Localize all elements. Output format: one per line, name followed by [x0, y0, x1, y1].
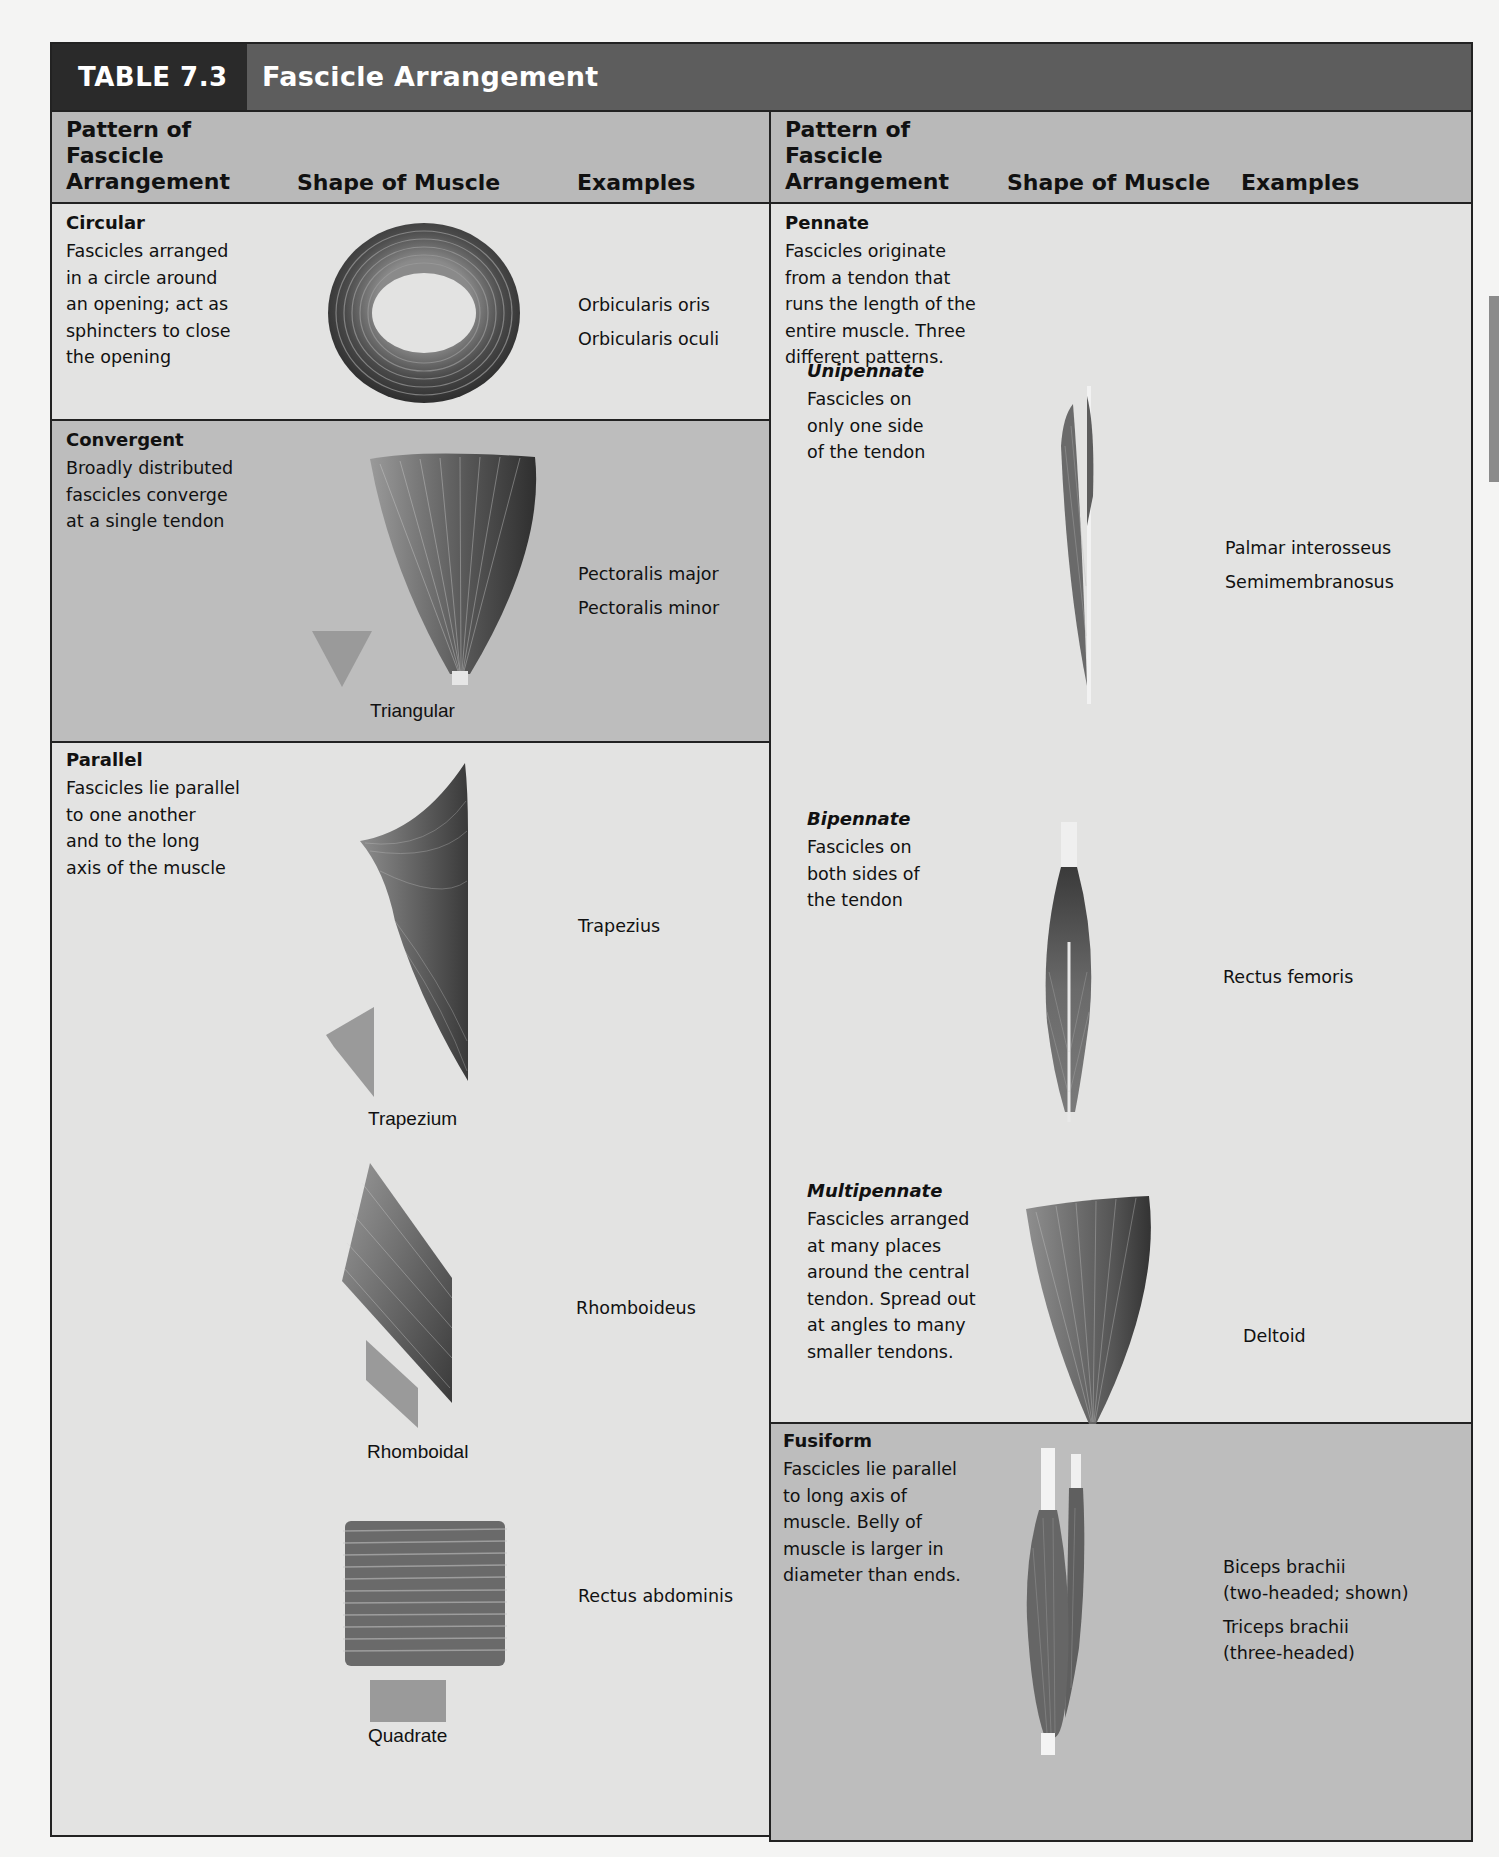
square-icon — [370, 1680, 446, 1722]
header-pattern-right: Pattern of Fascicle Arrangement — [785, 117, 985, 195]
shape-label-triangular: Triangular — [370, 700, 455, 722]
parallel-title: Parallel — [66, 749, 143, 770]
header-shape-right: Shape of Muscle — [1007, 170, 1210, 196]
example-triceps-brachii: Triceps brachii (three-headed) — [1223, 1614, 1355, 1666]
fusiform-title: Fusiform — [783, 1430, 872, 1451]
table-title: Fascicle Arrangement — [262, 44, 599, 110]
bipennate-description: Fascicles on both sides of the tendon — [807, 834, 920, 914]
convergent-title: Convergent — [66, 429, 184, 450]
example-rectus-abdominis: Rectus abdominis — [578, 1583, 733, 1609]
rhomboid-icon — [366, 1340, 422, 1428]
circular-title: Circular — [66, 212, 145, 233]
example-orbicularis-oris: Orbicularis oris — [578, 292, 710, 318]
ring-muscle-icon — [324, 218, 524, 408]
row-circular: Circular Fascicles arranged in a circle … — [52, 204, 769, 421]
parallel-description: Fascicles lie parallel to one another an… — [66, 775, 240, 881]
unipennate-title: Unipennate — [807, 360, 924, 381]
example-palmar-interosseus: Palmar interosseus — [1225, 535, 1391, 561]
example-trapezius: Trapezius — [578, 913, 660, 939]
convergent-description: Broadly distributed fascicles converge a… — [66, 455, 233, 535]
row-pennate: Pennate Fascicles originate from a tendo… — [771, 204, 1471, 1424]
page-edge-tab — [1489, 296, 1499, 482]
example-pectoralis-major: Pectoralis major — [578, 561, 719, 587]
header-examples: Examples — [577, 170, 695, 196]
header-shape: Shape of Muscle — [297, 170, 500, 196]
convergent-muscle-icon — [360, 449, 550, 689]
trapezium-icon — [326, 1007, 376, 1097]
left-header-row: Pattern of Fascicle Arrangement Shape of… — [52, 112, 769, 204]
fascicle-table: TABLE 7.3 Fascicle Arrangement Pattern o… — [50, 42, 1473, 1800]
unipennate-description: Fascicles on only one side of the tendon — [807, 386, 925, 466]
triangle-icon — [312, 631, 372, 687]
example-orbicularis-oculi: Orbicularis oculi — [578, 326, 719, 352]
circular-description: Fascicles arranged in a circle around an… — [66, 238, 231, 371]
multipennate-muscle-icon — [1021, 1194, 1161, 1439]
example-rhomboideus: Rhomboideus — [576, 1295, 696, 1321]
example-deltoid: Deltoid — [1243, 1323, 1306, 1349]
multipennate-description: Fascicles arranged at many places around… — [807, 1206, 976, 1365]
right-header-row: Pattern of Fascicle Arrangement Shape of… — [771, 112, 1471, 204]
shape-label-rhomboidal: Rhomboidal — [367, 1441, 468, 1463]
fusiform-description: Fascicles lie parallel to long axis of m… — [783, 1456, 961, 1589]
table-number: TABLE 7.3 — [52, 44, 247, 110]
multipennate-title: Multipennate — [807, 1180, 942, 1201]
example-rectus-femoris: Rectus femoris — [1223, 964, 1353, 990]
bipennate-title: Bipennate — [807, 808, 911, 829]
shape-label-quadrate: Quadrate — [368, 1725, 447, 1747]
row-fusiform: Fusiform Fascicles lie parallel to long … — [771, 1424, 1471, 1840]
example-semimembranosus: Semimembranosus — [1225, 569, 1394, 595]
left-column: Pattern of Fascicle Arrangement Shape of… — [50, 112, 771, 1837]
table-title-bar: TABLE 7.3 Fascicle Arrangement — [50, 42, 1473, 112]
bipennate-muscle-icon — [1039, 822, 1099, 1132]
rectus-abdominis-muscle-icon — [335, 1513, 515, 1673]
fusiform-muscle-icon — [1021, 1448, 1101, 1758]
unipennate-muscle-icon — [1053, 386, 1103, 706]
example-biceps-brachii: Biceps brachii (two-headed; shown) — [1223, 1554, 1409, 1606]
row-convergent: Convergent Broadly distributed fascicles… — [52, 421, 769, 743]
shape-label-trapezium: Trapezium — [368, 1108, 457, 1130]
header-examples-right: Examples — [1241, 170, 1359, 196]
example-pectoralis-minor: Pectoralis minor — [578, 595, 719, 621]
header-pattern: Pattern of Fascicle Arrangement — [66, 117, 266, 195]
row-parallel: Parallel Fascicles lie parallel to one a… — [52, 743, 769, 1835]
right-column: Pattern of Fascicle Arrangement Shape of… — [769, 112, 1473, 1842]
pennate-description: Fascicles originate from a tendon that r… — [785, 238, 976, 371]
pennate-title: Pennate — [785, 212, 869, 233]
